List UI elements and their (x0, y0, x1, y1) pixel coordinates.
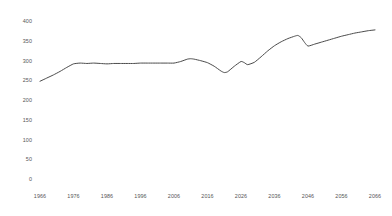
y-tick-label: 300 (14, 59, 32, 64)
x-tick-label: 2046 (302, 194, 314, 199)
y-tick-label: 100 (14, 138, 32, 143)
x-tick-label: 2016 (201, 194, 213, 199)
x-tick-label: 2026 (235, 194, 247, 199)
x-tick-label: 2066 (369, 194, 381, 199)
x-tick-label: 2006 (168, 194, 180, 199)
x-tick-label: 1966 (34, 194, 46, 199)
y-tick-label: 50 (14, 158, 32, 163)
y-tick-label: 150 (14, 118, 32, 123)
y-tick-label: 250 (14, 79, 32, 84)
y-tick-label: 400 (14, 19, 32, 24)
y-tick-label: 200 (14, 98, 32, 103)
x-tick-label: 1996 (134, 194, 146, 199)
chart-plot-area (0, 0, 392, 216)
x-tick-label: 1976 (67, 194, 79, 199)
y-tick-label: 0 (14, 177, 32, 182)
y-tick-label: 350 (14, 39, 32, 44)
x-tick-label: 2036 (268, 194, 280, 199)
line-chart: 050100150200250300350400 196619761986199… (0, 0, 392, 216)
data-line-series-1 (40, 30, 375, 81)
x-tick-label: 2056 (335, 194, 347, 199)
x-tick-label: 1986 (101, 194, 113, 199)
